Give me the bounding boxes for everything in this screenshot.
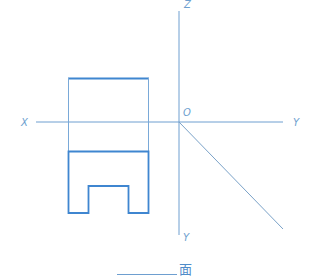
z-axis-label: Z xyxy=(183,0,192,10)
x-axis-label: X xyxy=(20,117,29,128)
y-axis-right-label: Y xyxy=(293,117,300,128)
front-view-notched-shape xyxy=(69,152,149,214)
diagonal-45-line xyxy=(179,122,283,229)
y-axis-down-label: Y xyxy=(183,232,190,243)
projection-diagram: Z X Y Y O 面 xyxy=(0,0,319,279)
origin-label: O xyxy=(183,107,191,118)
caption-suffix: 面 xyxy=(179,262,192,277)
